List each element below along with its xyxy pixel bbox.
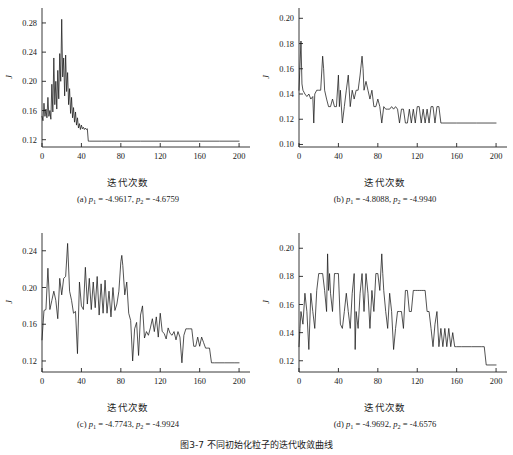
subplot-a: 0.120.160.200.240.2804080120160200 J 迭代次… xyxy=(0,0,256,228)
x-axis-label-a: 迭代次数 xyxy=(0,175,256,189)
y-tick-label-a: 0.20 xyxy=(22,77,37,86)
y-tick-label-d: 0.18 xyxy=(279,272,294,281)
x-tick-label-d: 0 xyxy=(297,377,301,386)
data-line-a xyxy=(42,19,239,141)
y-axis-label-a: J xyxy=(4,69,14,85)
x-tick-label-b: 160 xyxy=(450,152,463,161)
y-tick-label-d: 0.16 xyxy=(279,301,294,310)
subplot-caption-c-prefix: (c) xyxy=(77,419,89,429)
x-tick-label-c: 160 xyxy=(193,377,206,386)
x-axis-label-b: 迭代次数 xyxy=(257,175,513,189)
x-tick-label-a: 120 xyxy=(154,152,167,161)
subplot-b-p2-value: -4.9940 xyxy=(410,194,437,204)
subplot-d-p1-value: -4.9692 xyxy=(362,419,389,429)
subplot-caption-a: (a) p1 = -4.9617, p2 = -4.6759 xyxy=(0,194,256,204)
subplot-d: 0.120.140.160.180.2004080120160200 J 迭代次… xyxy=(257,225,513,453)
data-line-d xyxy=(299,254,496,365)
data-line-b xyxy=(299,41,496,123)
y-tick-label-d: 0.14 xyxy=(279,329,294,338)
subplot-caption-d-prefix: (d) xyxy=(334,419,346,429)
subplot-a-p2-value: -4.6759 xyxy=(153,194,180,204)
x-tick-label-a: 40 xyxy=(77,152,85,161)
subplot-d-p2-value: -4.6576 xyxy=(410,419,437,429)
x-tick-label-a: 0 xyxy=(40,152,44,161)
y-tick-label-a: 0.16 xyxy=(22,107,37,116)
subplot-c-p1-value: -4.7743 xyxy=(105,419,132,429)
y-tick-label-c: 0.12 xyxy=(22,357,37,366)
y-tick-label-c: 0.20 xyxy=(22,284,37,293)
y-tick-label-a: 0.24 xyxy=(22,48,37,57)
subplot-b-p1-value: -4.8088 xyxy=(362,194,389,204)
y-tick-label-d: 0.20 xyxy=(279,244,294,253)
x-tick-label-c: 200 xyxy=(233,377,246,386)
plot-area-a: 0.120.160.200.240.2804080120160200 xyxy=(0,0,256,175)
y-tick-label-c: 0.24 xyxy=(22,247,37,256)
x-tick-label-b: 200 xyxy=(490,152,503,161)
x-tick-label-c: 0 xyxy=(40,377,44,386)
x-tick-label-d: 160 xyxy=(450,377,463,386)
x-axis-label-d: 迭代次数 xyxy=(257,400,513,414)
plot-area-b: 0.100.120.140.160.180.2004080120160200 xyxy=(257,0,513,175)
x-tick-label-d: 120 xyxy=(411,377,424,386)
figure-convergence-curves: 0.120.160.200.240.2804080120160200 J 迭代次… xyxy=(0,0,513,455)
subplot-caption-b: (b) p1 = -4.8088, p2 = -4.9940 xyxy=(257,194,513,204)
subplot-caption-d: (d) p1 = -4.9692, p2 = -4.6576 xyxy=(257,419,513,429)
x-tick-label-d: 40 xyxy=(334,377,342,386)
x-tick-label-a: 200 xyxy=(233,152,246,161)
y-tick-label-b: 0.10 xyxy=(279,140,294,149)
y-tick-label-b: 0.14 xyxy=(279,90,294,99)
subplot-b: 0.100.120.140.160.180.2004080120160200 J… xyxy=(257,0,513,228)
subplot-c-p2-value: -4.9924 xyxy=(153,419,180,429)
x-tick-label-b: 40 xyxy=(334,152,342,161)
x-tick-label-c: 80 xyxy=(117,377,125,386)
y-axis-label-b: J xyxy=(261,69,271,85)
y-tick-label-b: 0.20 xyxy=(279,14,294,23)
x-tick-label-b: 80 xyxy=(374,152,382,161)
subplot-caption-c: (c) p1 = -4.7743, p2 = -4.9924 xyxy=(0,419,256,429)
x-tick-label-c: 120 xyxy=(154,377,167,386)
subplot-caption-b-prefix: (b) xyxy=(334,194,346,204)
subplot-caption-a-prefix: (a) xyxy=(77,194,89,204)
y-tick-label-c: 0.16 xyxy=(22,320,37,329)
plot-area-d: 0.120.140.160.180.2004080120160200 xyxy=(257,225,513,400)
x-tick-label-d: 200 xyxy=(490,377,503,386)
figure-caption: 图3-7 不同初始化粒子的迭代收敛曲线 xyxy=(0,438,513,451)
y-tick-label-a: 0.12 xyxy=(22,136,37,145)
data-line-c xyxy=(42,243,239,362)
x-tick-label-c: 40 xyxy=(77,377,85,386)
y-tick-label-b: 0.18 xyxy=(279,40,294,49)
y-tick-label-d: 0.12 xyxy=(279,357,294,366)
y-axis-label-c: J xyxy=(4,294,14,310)
subplot-a-p1-value: -4.9617 xyxy=(105,194,132,204)
y-tick-label-b: 0.16 xyxy=(279,65,294,74)
plot-area-c: 0.120.160.200.2404080120160200 xyxy=(0,225,256,400)
x-tick-label-a: 160 xyxy=(193,152,206,161)
y-tick-label-b: 0.12 xyxy=(279,115,294,124)
x-tick-label-a: 80 xyxy=(117,152,125,161)
x-axis-label-c: 迭代次数 xyxy=(0,400,256,414)
x-tick-label-b: 0 xyxy=(297,152,301,161)
y-axis-label-d: J xyxy=(261,294,271,310)
subplot-c: 0.120.160.200.2404080120160200 J 迭代次数 (c… xyxy=(0,225,256,453)
y-tick-label-a: 0.28 xyxy=(22,19,37,28)
x-tick-label-b: 120 xyxy=(411,152,424,161)
x-tick-label-d: 80 xyxy=(374,377,382,386)
